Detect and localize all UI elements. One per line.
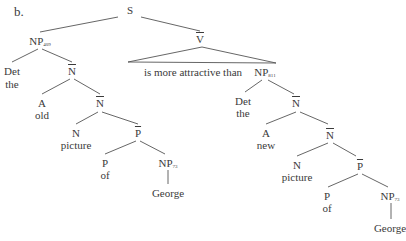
node-p-bar-1: P (135, 127, 141, 139)
word-picture-2: picture (282, 171, 313, 183)
edge-n2a-n2b (300, 112, 328, 124)
node-np-409: NP409 (29, 35, 51, 51)
node-v-bar: V (196, 33, 204, 45)
word-of-2: of (322, 202, 331, 214)
edge-n2a-a (266, 112, 296, 124)
edge-pbar2-p (328, 174, 358, 187)
edge-pbar1-p (105, 141, 136, 154)
node-n-bar-1a: N (68, 65, 76, 77)
edge-n1a-a (42, 79, 70, 94)
triangle-text: is more attractive than (144, 66, 242, 78)
word-new: new (257, 139, 275, 151)
edge-n1b-pbar (102, 112, 138, 124)
word-of-1: of (100, 169, 109, 181)
edge-pbar2-np (362, 174, 388, 187)
node-np-811: NP811 (254, 66, 275, 82)
word-picture-1: picture (61, 139, 92, 151)
triangle (128, 47, 276, 63)
node-n-bar-2a: N (292, 97, 300, 109)
edge-s-vbar (141, 17, 200, 31)
node-p-1: P (102, 157, 108, 169)
word-old: old (35, 109, 49, 121)
node-n-bar-2b: N (326, 129, 334, 141)
node-a-2: A (262, 127, 270, 139)
node-p-bar-2: P (357, 160, 363, 172)
node-n-2: N (293, 159, 301, 171)
node-a-1: A (38, 97, 46, 109)
edge-s-np (40, 17, 118, 32)
node-p-2: P (324, 190, 330, 202)
triangle-base (128, 62, 276, 63)
edge-n1b-n (76, 112, 98, 124)
node-np-73-2: NP73 (380, 190, 399, 206)
edge-n2b-pbar (333, 143, 356, 156)
node-np-73-1: NP73 (158, 157, 177, 173)
word-george-2: George (374, 222, 406, 234)
edge-n2b-n (297, 143, 328, 156)
node-det-2: Det (235, 95, 251, 107)
edge-n1a-n1b (74, 79, 100, 94)
node-s: S (127, 4, 133, 16)
word-the-1: the (5, 78, 18, 90)
edge-np2-nbar (268, 80, 294, 94)
node-n-bar-1b: N (96, 97, 104, 109)
word-the-2: the (236, 107, 249, 119)
node-det-1: Det (4, 65, 20, 77)
edge-pbar1-np (140, 141, 165, 154)
word-george-1: George (152, 187, 184, 199)
node-n-1: N (72, 127, 80, 139)
